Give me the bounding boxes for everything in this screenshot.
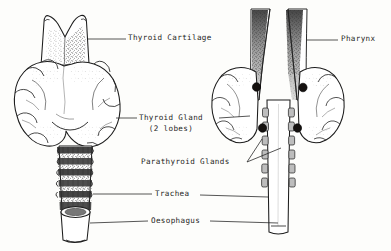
parathyroid-gland-inferior-left [258, 124, 266, 133]
leader-trachea-right [200, 195, 268, 197]
parathyroid-gland-inferior-right [293, 124, 301, 133]
anatomy-diagram: Thyroid Cartilage Thyroid Gland (2 lobes… [0, 0, 391, 251]
label-oesophagus: Oesophagus [151, 216, 200, 227]
thyroid-gland-shape [14, 60, 120, 147]
label-thyroid-gland-main: Thyroid Gland [139, 113, 203, 122]
parathyroid-gland-superior-right [299, 83, 307, 92]
label-thyroid-gland-sublabel: (2 lobes) [139, 123, 203, 134]
label-pharynx: Pharynx [341, 34, 375, 45]
label-thyroid-gland: Thyroid Gland (2 lobes) [139, 112, 203, 134]
oesophagus-shape [61, 207, 90, 243]
label-parathyroid-glands: Parathyroid Glands [141, 157, 230, 168]
leader-oesophagus-right [210, 221, 278, 223]
label-trachea: Trachea [155, 189, 189, 200]
parathyroid-gland-superior-left [252, 83, 260, 92]
label-thyroid-cartilage: Thyroid Cartilage [128, 33, 212, 44]
anterior-view-figure [14, 15, 120, 242]
trachea-posterior-shape [262, 100, 296, 234]
trachea-anterior-shape [56, 146, 94, 212]
leader-oesophagus-left [90, 221, 148, 223]
posterior-view-figure [212, 5, 344, 234]
